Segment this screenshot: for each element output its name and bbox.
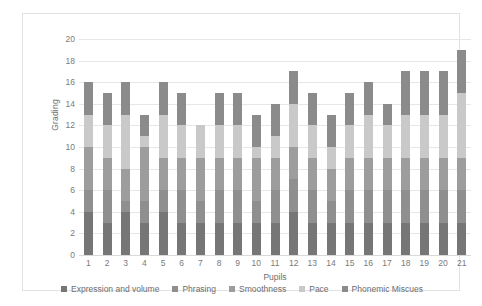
bar-segment[interactable] [420,71,429,114]
bar-segment[interactable] [289,179,298,211]
bar-segment[interactable] [383,104,392,126]
bar-segment[interactable] [121,115,130,169]
bar-segment[interactable] [457,158,466,190]
bar-segment[interactable] [308,190,317,222]
bar-segment[interactable] [140,201,149,223]
bar-column[interactable] [420,71,429,255]
bar-segment[interactable] [364,223,373,255]
bar-segment[interactable] [121,169,130,201]
bar-segment[interactable] [401,223,410,255]
bar-segment[interactable] [159,82,168,114]
bar-segment[interactable] [439,71,448,114]
bar-segment[interactable] [233,223,242,255]
bar-segment[interactable] [289,212,298,255]
bar-segment[interactable] [327,147,336,169]
bar-column[interactable] [159,82,168,255]
bar-segment[interactable] [308,125,317,157]
bar-column[interactable] [233,93,242,255]
bar-segment[interactable] [252,158,261,201]
bar-segment[interactable] [140,115,149,137]
bar-column[interactable] [215,93,224,255]
bar-segment[interactable] [327,201,336,223]
bar-segment[interactable] [439,190,448,222]
bar-segment[interactable] [84,147,93,190]
bar-segment[interactable] [84,190,93,212]
bar-column[interactable] [196,125,205,255]
bar-segment[interactable] [177,93,186,125]
bar-segment[interactable] [327,223,336,255]
bar-segment[interactable] [401,115,410,158]
legend-item[interactable]: Phrasing [172,284,216,294]
bar-segment[interactable] [364,82,373,114]
bar-segment[interactable] [327,115,336,147]
bar-segment[interactable] [121,212,130,255]
bar-segment[interactable] [140,136,149,147]
bar-segment[interactable] [271,104,280,136]
bar-column[interactable] [457,50,466,255]
bar-segment[interactable] [345,125,354,157]
bar-segment[interactable] [271,136,280,158]
bar-segment[interactable] [177,190,186,222]
bar-segment[interactable] [308,223,317,255]
legend-item[interactable]: Phonemic Miscues [342,284,423,294]
bar-column[interactable] [401,71,410,255]
bar-segment[interactable] [177,223,186,255]
bar-segment[interactable] [289,71,298,103]
bar-segment[interactable] [401,158,410,190]
bar-column[interactable] [439,71,448,255]
bar-segment[interactable] [215,223,224,255]
bar-segment[interactable] [215,158,224,190]
bar-segment[interactable] [364,115,373,158]
bar-segment[interactable] [364,158,373,190]
bar-segment[interactable] [177,158,186,190]
bar-segment[interactable] [196,125,205,157]
bar-segment[interactable] [252,147,261,158]
bar-segment[interactable] [457,50,466,93]
bar-segment[interactable] [383,190,392,222]
bar-segment[interactable] [159,190,168,212]
bar-segment[interactable] [103,125,112,157]
bar-segment[interactable] [308,158,317,190]
bar-segment[interactable] [196,201,205,223]
bar-segment[interactable] [84,82,93,114]
legend-item[interactable]: Pace [299,284,328,294]
bar-segment[interactable] [345,93,354,125]
bar-segment[interactable] [215,93,224,125]
bar-column[interactable] [383,104,392,255]
bar-segment[interactable] [401,71,410,114]
bar-segment[interactable] [271,223,280,255]
bar-segment[interactable] [289,147,298,179]
bar-segment[interactable] [420,223,429,255]
bar-segment[interactable] [84,115,93,147]
bar-column[interactable] [289,71,298,255]
bar-segment[interactable] [252,115,261,147]
bar-segment[interactable] [345,190,354,222]
bar-column[interactable] [140,115,149,255]
bar-segment[interactable] [103,223,112,255]
bar-column[interactable] [364,82,373,255]
bar-segment[interactable] [345,223,354,255]
bar-segment[interactable] [439,115,448,158]
bar-column[interactable] [252,115,261,255]
bar-segment[interactable] [121,201,130,212]
bar-segment[interactable] [103,93,112,125]
bar-segment[interactable] [196,158,205,201]
bar-segment[interactable] [364,190,373,222]
bar-column[interactable] [121,82,130,255]
bar-segment[interactable] [177,125,186,157]
bar-segment[interactable] [233,125,242,157]
bar-segment[interactable] [457,223,466,255]
bar-segment[interactable] [84,212,93,255]
bar-segment[interactable] [140,223,149,255]
legend-item[interactable]: Expression and volume [61,284,159,294]
bar-segment[interactable] [439,158,448,190]
bar-column[interactable] [271,104,280,255]
bar-segment[interactable] [271,158,280,190]
bar-segment[interactable] [345,158,354,190]
bar-column[interactable] [103,93,112,255]
bar-segment[interactable] [233,158,242,190]
bar-segment[interactable] [233,93,242,125]
bar-column[interactable] [345,93,354,255]
bar-segment[interactable] [215,190,224,222]
bar-segment[interactable] [308,93,317,125]
